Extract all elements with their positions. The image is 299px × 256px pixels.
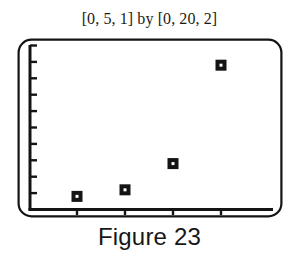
data-point-marker: [120, 184, 131, 195]
data-point-marker: [168, 158, 179, 169]
window-range-title: [0, 5, 1] by [0, 20, 2]: [0, 9, 299, 29]
figure-caption: Figure 23: [0, 222, 299, 252]
screen-bezel: [19, 40, 282, 217]
scatter-plot-svg: [17, 38, 283, 218]
data-point-marker: [72, 191, 83, 202]
data-point-marker: [216, 60, 227, 71]
figure-23: [0, 5, 1] by [0, 20, 2] Figure 23: [0, 0, 299, 256]
calculator-screen: [17, 38, 283, 218]
